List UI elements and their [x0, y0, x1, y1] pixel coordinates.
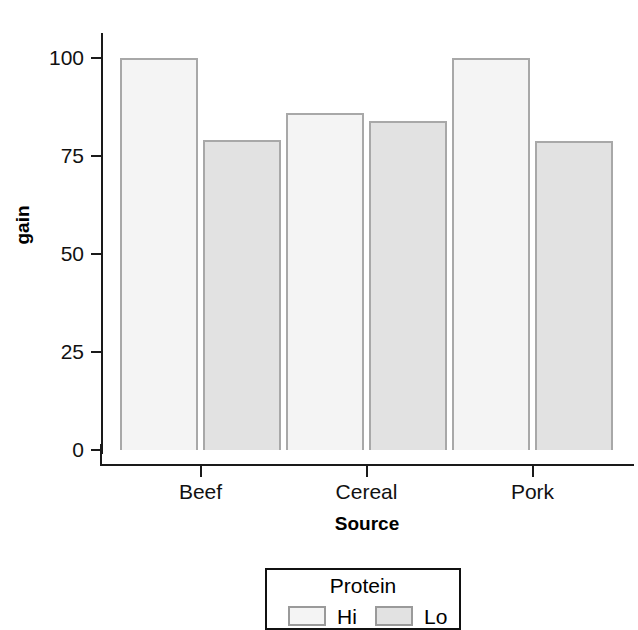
plot-area	[0, 0, 638, 452]
legend-entry-hi: Hi	[288, 604, 357, 628]
legend-swatch-hi	[288, 606, 326, 626]
x-axis-left-cap	[100, 444, 102, 466]
x-tick-label: Pork	[453, 480, 613, 504]
x-tick-label: Cereal	[287, 480, 447, 504]
legend-label-lo: Lo	[424, 606, 447, 627]
bar-beef-hi	[120, 58, 198, 450]
x-tick-mark	[200, 466, 202, 477]
legend: Protein HiLo	[265, 568, 461, 630]
x-tick-mark	[532, 466, 534, 477]
legend-label-hi: Hi	[337, 606, 357, 627]
x-axis-title: Source	[100, 513, 634, 535]
bar-cereal-lo	[369, 121, 447, 450]
x-tick-mark	[366, 466, 368, 477]
bar-beef-lo	[203, 140, 281, 450]
legend-title: Protein	[267, 574, 459, 598]
bar-pork-hi	[452, 58, 530, 450]
x-tick-label: Beef	[121, 480, 281, 504]
legend-swatch-lo	[375, 606, 413, 626]
bar-cereal-hi	[286, 113, 364, 450]
bar-pork-lo	[535, 141, 613, 450]
legend-entry-lo: Lo	[375, 604, 447, 628]
